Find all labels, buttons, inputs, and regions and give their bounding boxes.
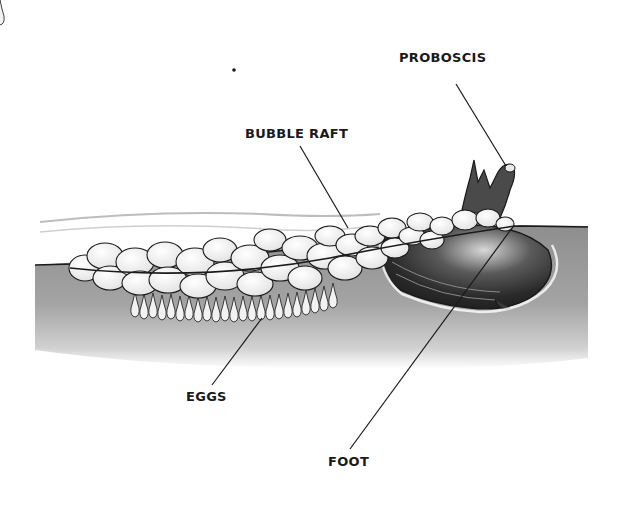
label-proboscis: PROBOSCIS <box>399 50 486 65</box>
label-eggs: EGGS <box>186 389 227 404</box>
label-foot: FOOT <box>328 454 369 469</box>
leader-proboscis <box>456 84 506 166</box>
speck <box>232 68 236 72</box>
snail-bubble-raft-diagram: PROBOSCIS BUBBLE RAFT EGGS FOOT <box>0 0 625 513</box>
illustration <box>0 0 625 513</box>
label-bubble-raft: BUBBLE RAFT <box>245 126 348 141</box>
